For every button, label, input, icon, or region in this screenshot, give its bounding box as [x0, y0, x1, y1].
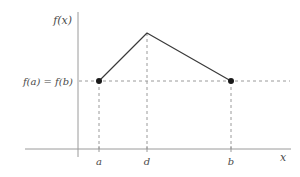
rolles-theorem-figure: f(x) x f(a) = f(b) a d b [0, 0, 300, 177]
f-a-equals-f-b-label: f(a) = f(b) [22, 76, 73, 87]
x-tick-label-d: d [144, 156, 150, 167]
x-axis-label: x [280, 151, 287, 164]
point-marker-b [228, 78, 234, 84]
figure-background [0, 0, 300, 177]
point-marker-a [96, 78, 102, 84]
y-axis-label: f(x) [52, 14, 72, 27]
x-tick-label-a: a [96, 156, 102, 167]
x-tick-label-b: b [228, 156, 234, 167]
